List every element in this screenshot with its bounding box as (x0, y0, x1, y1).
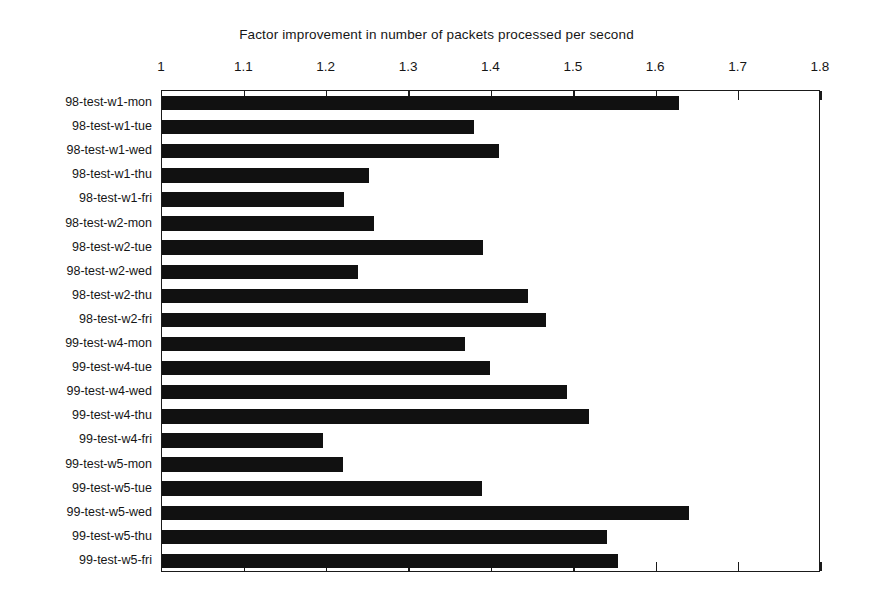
y-tick-label: 98-test-w2-thu (0, 288, 152, 302)
y-tick-label: 99-test-w5-tue (0, 481, 152, 495)
y-tick-label: 98-test-w1-wed (0, 143, 152, 157)
y-tick-label: 98-test-w2-wed (0, 264, 152, 278)
y-tick-label: 99-test-w4-wed (0, 384, 152, 398)
y-tick-label: 99-test-w4-fri (0, 432, 152, 446)
bar-chart: Factor improvement in number of packets … (0, 0, 873, 608)
y-tick-label: 99-test-w4-thu (0, 408, 152, 422)
y-tick-label: 98-test-w2-fri (0, 312, 152, 326)
y-tick-label: 98-test-w1-mon (0, 95, 152, 109)
y-tick-label: 99-test-w5-fri (0, 553, 152, 567)
y-tick-label: 99-test-w5-wed (0, 505, 152, 519)
y-tick-label: 99-test-w4-mon (0, 336, 152, 350)
y-tick-label: 99-test-w4-tue (0, 360, 152, 374)
y-tick-label: 98-test-w1-tue (0, 119, 152, 133)
y-tick-label: 98-test-w2-tue (0, 240, 152, 254)
y-tick-label: 98-test-w1-fri (0, 191, 152, 205)
y-tick-label: 99-test-w5-thu (0, 529, 152, 543)
y-tick-label: 99-test-w5-mon (0, 457, 152, 471)
y-axis-tick-labels: 98-test-w1-mon98-test-w1-tue98-test-w1-w… (0, 0, 873, 608)
y-tick-label: 98-test-w2-mon (0, 216, 152, 230)
y-tick-label: 98-test-w1-thu (0, 167, 152, 181)
